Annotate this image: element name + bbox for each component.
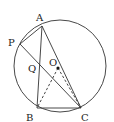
label-q: Q (28, 63, 36, 74)
label-p: P (8, 37, 15, 48)
label-a: A (35, 12, 44, 23)
solid-segment-ac (42, 26, 81, 108)
label-o: O (49, 57, 57, 68)
label-c: C (81, 112, 89, 122)
dashed-segment-ob (37, 68, 58, 108)
geometry-diagram: A P Q O B C (0, 0, 114, 122)
label-b: B (26, 112, 33, 122)
dashed-segments (37, 68, 81, 108)
diagram-svg: A P Q O B C (0, 0, 114, 122)
solid-segment-ab (37, 26, 42, 108)
solid-segment-ap (20, 26, 42, 44)
solid-segment-pc (20, 44, 81, 108)
